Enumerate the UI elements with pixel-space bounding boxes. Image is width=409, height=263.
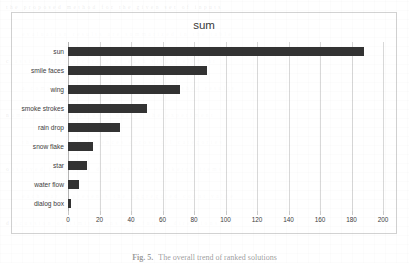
x-tickmark	[289, 211, 290, 215]
bar	[68, 85, 180, 94]
bar	[68, 180, 79, 189]
bar-row: smoke strokes	[68, 99, 383, 118]
category-label: snow flake	[33, 142, 64, 151]
x-tickmark	[352, 211, 353, 215]
bar-row: star	[68, 156, 383, 175]
x-tick-label: 80	[190, 216, 197, 223]
bar	[68, 123, 120, 132]
bar-row: rain drop	[68, 118, 383, 137]
figure-caption: Fig. 5.The overall trend of ranked solut…	[0, 253, 409, 263]
x-tickmark	[163, 211, 164, 215]
chart-title: sum	[12, 19, 396, 31]
category-label: smile faces	[31, 66, 64, 75]
bar	[68, 199, 71, 208]
category-label: star	[53, 161, 64, 170]
bar-series: sunsmile faceswingsmoke strokesrain drop…	[68, 42, 383, 213]
bar-row: sun	[68, 42, 383, 61]
bar	[68, 66, 207, 75]
category-label: sun	[53, 47, 64, 56]
category-label: dialog box	[34, 199, 64, 208]
x-tick-label: 40	[127, 216, 134, 223]
bar	[68, 161, 87, 170]
x-tickmark	[257, 211, 258, 215]
category-label: water flow	[34, 180, 64, 189]
x-tickmark	[194, 211, 195, 215]
x-tickmark	[100, 211, 101, 215]
x-tick-label: 180	[346, 216, 357, 223]
x-axis: 020406080100120140160180200	[68, 216, 383, 230]
x-tick-label: 200	[378, 216, 389, 223]
bar-row: smile faces	[68, 61, 383, 80]
category-label: rain drop	[38, 123, 64, 132]
category-label: wing	[50, 85, 64, 94]
x-tick-label: 120	[252, 216, 263, 223]
x-tickmark	[226, 211, 227, 215]
x-tick-label: 160	[315, 216, 326, 223]
x-tickmark	[383, 211, 384, 215]
x-tick-label: 60	[159, 216, 166, 223]
x-tick-label: 0	[66, 216, 70, 223]
x-tick-label: 100	[220, 216, 231, 223]
category-label: smoke strokes	[21, 104, 64, 113]
bar	[68, 104, 147, 113]
x-tickmark	[68, 211, 69, 215]
bar-row: wing	[68, 80, 383, 99]
bar	[68, 142, 93, 151]
x-tickmark	[320, 211, 321, 215]
x-tickmark	[131, 211, 132, 215]
gridline-200	[383, 42, 384, 213]
figure-caption-text: The overall trend of ranked solutions	[158, 253, 276, 262]
bar-row: water flow	[68, 175, 383, 194]
plot-area: sunsmile faceswingsmoke strokesrain drop…	[68, 42, 383, 213]
figure-caption-label: Fig. 5.	[132, 253, 153, 262]
bar	[68, 47, 364, 56]
chart-frame: sum sunsmile faceswingsmoke strokesrain …	[11, 12, 397, 234]
bleed-text-row: the proposed method for the given set of…	[6, 4, 223, 10]
bar-row: snow flake	[68, 137, 383, 156]
x-tick-label: 140	[283, 216, 294, 223]
x-tick-label: 20	[96, 216, 103, 223]
